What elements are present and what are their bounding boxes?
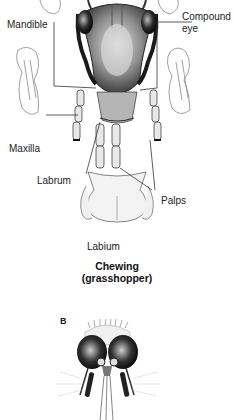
caption-line2: (grasshopper) <box>67 272 167 284</box>
labium <box>81 172 154 222</box>
label-compound-eye-line2: eye <box>182 23 198 34</box>
label-labium: Labium <box>87 241 120 252</box>
label-palps: Palps <box>161 195 186 206</box>
compound-eye-left <box>77 10 93 34</box>
caption-chewing: Chewing (grasshopper) <box>67 260 167 284</box>
label-mandible: Mandible <box>7 19 48 30</box>
grasshopper-head <box>77 0 157 123</box>
insect-mouthparts-illustration <box>0 0 234 420</box>
label-labrum: Labrum <box>37 175 71 186</box>
compound-eye-right <box>141 10 157 34</box>
mosquito-head <box>56 319 160 420</box>
label-maxilla: Maxilla <box>9 143 40 154</box>
caption-line1: Chewing <box>67 260 167 272</box>
label-compound-eye-line1: Compound <box>182 11 231 22</box>
panel-letter-b: B <box>60 316 67 327</box>
